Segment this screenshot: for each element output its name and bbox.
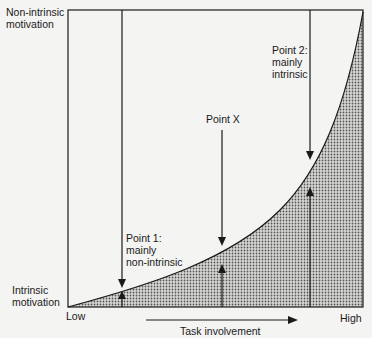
point-1-line-2: mainly	[126, 244, 183, 256]
y-top-line-1: Non-intrinsic	[6, 6, 64, 18]
y-top-line-2: motivation	[6, 18, 64, 30]
task-involvement-arrow	[146, 316, 298, 324]
x-high-label: High	[340, 312, 362, 324]
x-low-label: Low	[66, 310, 85, 322]
point-2-line-1: Point 2:	[272, 44, 308, 56]
point-x-label: Point X	[206, 113, 240, 125]
shaded-area	[68, 12, 363, 307]
point-1-line-3: non-intrinsic	[126, 256, 183, 268]
point-1-label: Point 1: mainly non-intrinsic	[126, 232, 183, 268]
point-2-line-3: intrinsic	[272, 68, 308, 80]
y-bottom-line-2: motivation	[12, 296, 60, 308]
point-2-label: Point 2: mainly intrinsic	[272, 44, 308, 80]
y-axis-top-label: Non-intrinsic motivation	[6, 6, 64, 30]
x-axis-label: Task involvement	[180, 325, 261, 337]
y-bottom-line-1: Intrinsic	[12, 284, 60, 296]
point-2-line-2: mainly	[272, 56, 308, 68]
point-1-arrows	[118, 10, 126, 307]
point-x-line-1: Point X	[206, 113, 240, 125]
point-1-line-1: Point 1:	[126, 232, 183, 244]
y-axis-bottom-label: Intrinsic motivation	[12, 284, 60, 308]
